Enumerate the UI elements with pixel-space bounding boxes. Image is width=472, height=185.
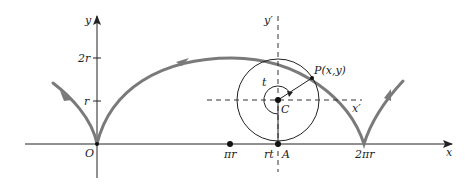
- cycloid-diagram: y x O 2r r πr rt 2πr A C t P(x,y) x′ y′: [0, 0, 472, 185]
- tick-label-rt: rt: [264, 148, 274, 161]
- label-local-x: x′: [352, 102, 361, 115]
- label-local-y: y′: [263, 14, 273, 27]
- label-p: P(x,y): [313, 64, 346, 77]
- cycloid-curve: [53, 58, 403, 144]
- tick-label-2pir: 2πr: [354, 148, 375, 161]
- tick-label-r: r: [84, 95, 90, 108]
- point-o: [95, 142, 99, 146]
- label-t: t: [262, 76, 267, 89]
- label-c: C: [281, 103, 290, 116]
- curve-arrow-icon: [384, 89, 391, 101]
- x-axis-label: x: [446, 146, 453, 159]
- tick-label-pir: πr: [223, 148, 237, 161]
- origin-label: O: [85, 147, 94, 160]
- label-a: A: [281, 148, 290, 161]
- y-axis-label: y: [84, 14, 92, 27]
- point-pir: [227, 141, 233, 147]
- radius-cp: [278, 78, 312, 100]
- tick-label-2r: 2r: [77, 52, 91, 65]
- point-a: [275, 141, 281, 147]
